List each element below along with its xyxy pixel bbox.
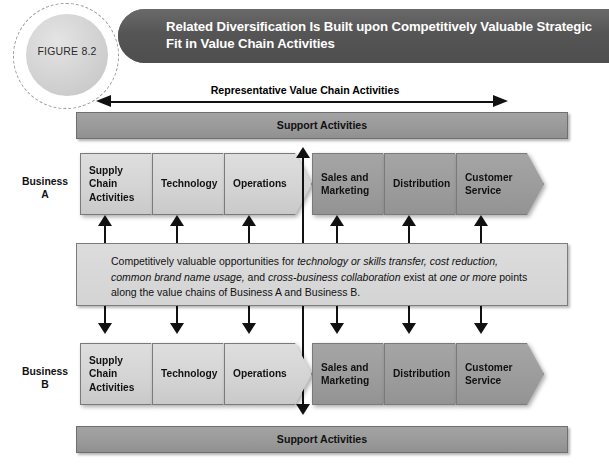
- support-activities-bar-bottom: Support Activities: [76, 426, 568, 453]
- note-segment-6: one or more: [440, 271, 497, 283]
- business-b-label: Business B: [14, 365, 76, 391]
- link-arrow-up-technology-icon: [170, 215, 184, 243]
- link-arrow-up-supply-chain-icon: [98, 215, 112, 243]
- horizontal-arrow-head-right-icon: [493, 95, 508, 107]
- business-b-label-line1: Business: [14, 365, 76, 378]
- strategic-fit-note-text: Competitively valuable opportunities for…: [111, 254, 537, 301]
- horizontal-arrow-head-left-icon: [96, 95, 111, 107]
- link-arrow-up-customer-service-icon: [474, 215, 488, 243]
- chevron-label: Sales and Marketing: [321, 153, 380, 215]
- link-arrow-down-customer-service-icon: [474, 306, 488, 334]
- representative-value-chain-activities-label: Representative Value Chain Activities: [105, 84, 505, 96]
- business-a-label-line2: A: [14, 188, 76, 201]
- chevron-label: Operations: [233, 153, 292, 215]
- link-arrow-up-sales-marketing-icon: [330, 215, 344, 243]
- note-segment-3: and: [245, 271, 268, 283]
- chevron-label: Customer Service: [465, 343, 524, 405]
- link-arrow-down-sales-marketing-icon: [330, 306, 344, 334]
- chevron-label: Distribution: [393, 343, 452, 405]
- support-activities-bar-bottom-label: Support Activities: [77, 427, 567, 452]
- chevron-label: Distribution: [393, 153, 452, 215]
- chevron-label: Operations: [233, 343, 292, 405]
- business-a-label: Business A: [14, 175, 76, 201]
- header-banner: Related Diversification Is Built upon Co…: [118, 9, 609, 63]
- link-arrow-down-operations-icon: [242, 306, 256, 334]
- link-arrow-up-operations-icon: [242, 215, 256, 243]
- note-segment-5: exist at: [401, 271, 440, 283]
- business-a-chevron-customer-service[interactable]: Customer Service: [456, 153, 544, 215]
- link-arrow-down-technology-icon: [170, 306, 184, 334]
- note-segment-4: cross-business collaboration: [268, 271, 400, 283]
- figure-title: Related Diversification Is Built upon Co…: [166, 18, 596, 52]
- support-activities-bar-top: Support Activities: [76, 112, 568, 139]
- support-activities-bar-top-label: Support Activities: [77, 113, 567, 138]
- business-a-label-line1: Business: [14, 175, 76, 188]
- chevron-label: Supply Chain Activities: [89, 343, 148, 405]
- chevron-label: Supply Chain Activities: [89, 153, 148, 215]
- horizontal-span-arrow-line: [110, 101, 495, 103]
- strategic-fit-note-box: Competitively valuable opportunities for…: [76, 243, 568, 306]
- chevron-label: Sales and Marketing: [321, 343, 380, 405]
- link-arrow-down-supply-chain-icon: [98, 306, 112, 334]
- figure-number-label: FIGURE 8.2: [26, 45, 108, 57]
- business-b-chevron-operations[interactable]: Operations: [224, 343, 312, 405]
- chevron-label: Technology: [161, 343, 220, 405]
- business-b-chevron-customer-service[interactable]: Customer Service: [456, 343, 544, 405]
- chevron-label: Customer Service: [465, 153, 524, 215]
- link-arrow-up-distribution-icon: [402, 215, 416, 243]
- link-arrow-down-distribution-icon: [402, 306, 416, 334]
- chevron-label: Technology: [161, 153, 220, 215]
- business-b-label-line2: B: [14, 378, 76, 391]
- value-chain-diagram: Representative Value Chain Activities Su…: [0, 74, 609, 474]
- note-segment-1: Competitively valuable opportunities for: [111, 255, 297, 267]
- figure-header: Related Diversification Is Built upon Co…: [0, 0, 609, 74]
